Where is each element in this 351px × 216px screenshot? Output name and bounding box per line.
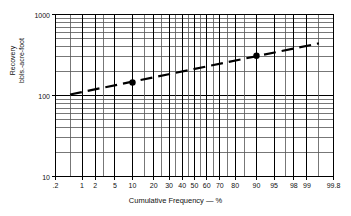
x-tick-label: 70 [216,182,224,189]
x-tick-label: 90 [253,182,261,189]
x-tick-label: 40 [178,182,186,189]
x-tick-label: 50 [191,182,199,189]
x-tick-label: 95 [270,182,278,189]
x-tick-label: 30 [165,182,173,189]
log-probability-chart: .212510203040506070809095989999.8 101001… [0,0,351,216]
x-tick-label: 99 [303,182,311,189]
x-axis-title: Cumulative Frequency — % [0,196,351,205]
x-tick-label: 10 [129,182,137,189]
x-tick-label: 98 [290,182,298,189]
axis-tick-marks [52,15,334,181]
x-tick-label: 20 [150,182,158,189]
x-tick-label: .2 [53,182,59,189]
x-tick-label: 60 [203,182,211,189]
y-axis-title: Recovery bbls.-acre-foot [9,18,26,104]
x-tick-label: 80 [231,182,239,189]
data-point-marker [129,79,135,85]
y-axis-title-line-1: Recovery [9,18,18,104]
y-tick-label: 10 [18,173,50,180]
y-axis-title-line-2: bbls.-acre-foot [17,18,26,104]
data-point-marker [253,52,259,58]
x-tick-label: 5 [113,182,117,189]
grid-lines [56,15,334,177]
x-tick-label: 2 [93,182,97,189]
x-tick-label: 1 [80,182,84,189]
x-tick-label: 99.8 [327,182,341,189]
